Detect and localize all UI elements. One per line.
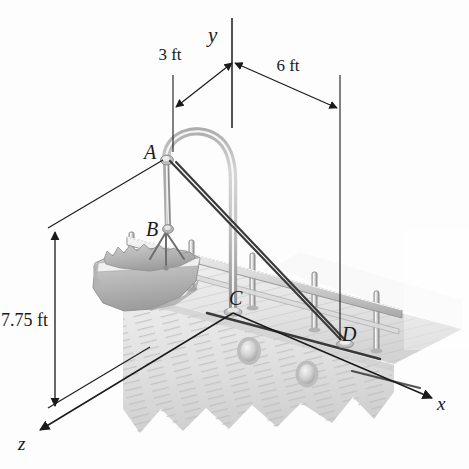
y-axis-label: y (206, 23, 218, 47)
davit-diagram-svg: y x z 3 ft 6 ft 7.75 ft (0, 0, 469, 469)
point-b-label: B (146, 218, 158, 240)
dimension-6ft-label: 6 ft (276, 56, 299, 75)
point-a-label: A (142, 141, 157, 163)
x-axis-label: x (436, 393, 446, 414)
figure-canvas: y x z 3 ft 6 ft 7.75 ft (0, 0, 469, 469)
porthole (296, 361, 319, 388)
boat-sling-fitting (163, 225, 174, 234)
dim-line-3ft (176, 63, 232, 107)
dimension-3ft-label: 3 ft (158, 45, 181, 64)
dimension-7_75ft-label: 7.75 ft (1, 310, 48, 330)
point-c-label: C (229, 287, 243, 309)
z-axis-label: z (17, 433, 26, 454)
point-d-label: D (341, 323, 357, 345)
porthole (237, 337, 261, 365)
